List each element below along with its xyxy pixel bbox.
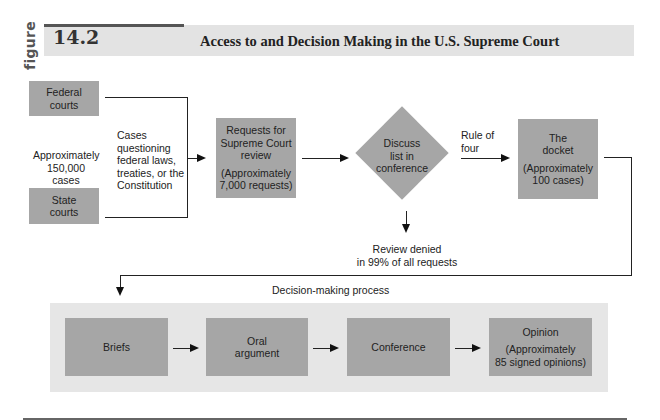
lower-count-line2: 150,000 cases — [33, 162, 99, 187]
step-count-line: 85 signed opinions) — [495, 356, 586, 369]
requests-count-line: 7,000 requests) — [220, 179, 293, 192]
requests-title-line: Requests for — [226, 124, 286, 137]
step-opinion: Opinion (Approximately 85 signed opinion… — [489, 318, 592, 376]
docket-title-line: The — [549, 132, 567, 145]
step-label: argument — [235, 347, 279, 360]
state-courts-box: State courts — [29, 188, 99, 224]
step-label: Conference — [371, 341, 425, 354]
state-courts-line2: courts — [50, 206, 79, 219]
cases-note-line: questioning — [117, 142, 184, 155]
arrow-right-icon — [197, 154, 206, 162]
docket-count-line: 100 cases) — [532, 174, 583, 187]
requests-title-line: review — [241, 149, 271, 162]
step-label: Oral — [247, 335, 267, 348]
lower-count-line1: Approximately — [33, 149, 99, 162]
connector-discuss-docket — [461, 158, 503, 159]
step-label: Opinion — [522, 326, 558, 339]
state-courts-line1: State — [52, 194, 77, 207]
rule-line: four — [461, 142, 494, 155]
rule-of-four-label: Rule of four — [461, 129, 494, 154]
connector-federal — [105, 97, 188, 98]
connector-state — [105, 217, 188, 218]
connector-step — [455, 348, 473, 349]
figure-label: figure — [22, 21, 38, 70]
connector-step — [313, 348, 331, 349]
discuss-line: list in — [362, 150, 442, 163]
decision-process-label: Decision-making process — [272, 284, 389, 297]
federal-courts-line1: Federal — [46, 86, 82, 99]
connector-step — [173, 348, 191, 349]
federal-courts-line2: courts — [50, 99, 79, 112]
connector-docket-return — [120, 275, 632, 276]
step-oral-argument: Oral argument — [206, 318, 308, 376]
arrow-right-icon — [472, 344, 481, 352]
connector-docket-out — [604, 157, 631, 158]
cases-note-line: treaties, or the — [117, 167, 184, 180]
requests-title-line: Supreme Court — [220, 137, 291, 150]
requests-count-line: (Approximately — [221, 167, 291, 180]
step-label: Briefs — [103, 341, 130, 354]
discuss-label: Discuss list in conference — [362, 137, 442, 175]
step-briefs: Briefs — [65, 318, 168, 376]
denied-line: Review denied — [352, 243, 462, 256]
connector-docket-down — [631, 157, 632, 276]
cases-note-line: Cases — [117, 129, 184, 142]
docket-box: The docket (Approximately 100 cases) — [518, 119, 598, 199]
discuss-line: conference — [362, 162, 442, 175]
figure-title: Access to and Decision Making in the U.S… — [200, 33, 559, 50]
arrow-down-icon — [402, 224, 410, 233]
discuss-line: Discuss — [362, 137, 442, 150]
cases-note-line: Constitution — [117, 179, 184, 192]
figure-number: 14.2 — [53, 26, 99, 48]
docket-title-line: docket — [543, 144, 574, 157]
connector-requests-discuss — [302, 158, 342, 159]
requests-box: Requests for Supreme Court review (Appro… — [216, 118, 296, 198]
arrow-right-icon — [501, 154, 510, 162]
docket-count-line: (Approximately — [523, 162, 593, 175]
federal-courts-box: Federal courts — [29, 81, 99, 116]
arrow-right-icon — [330, 344, 339, 352]
cases-note: Cases questioning federal laws, treaties… — [117, 129, 184, 192]
lower-courts-count: Approximately 150,000 cases — [33, 149, 99, 187]
denied-line: in 99% of all requests — [352, 256, 462, 269]
arrow-down-icon — [116, 287, 124, 296]
denied-note: Review denied in 99% of all requests — [352, 243, 462, 268]
arrow-right-icon — [340, 154, 349, 162]
step-conference: Conference — [347, 318, 450, 376]
arrow-right-icon — [190, 344, 199, 352]
cases-note-line: federal laws, — [117, 154, 184, 167]
connector-denied — [406, 211, 407, 225]
step-count-line: (Approximately — [505, 343, 575, 356]
rule-line: Rule of — [461, 129, 494, 142]
